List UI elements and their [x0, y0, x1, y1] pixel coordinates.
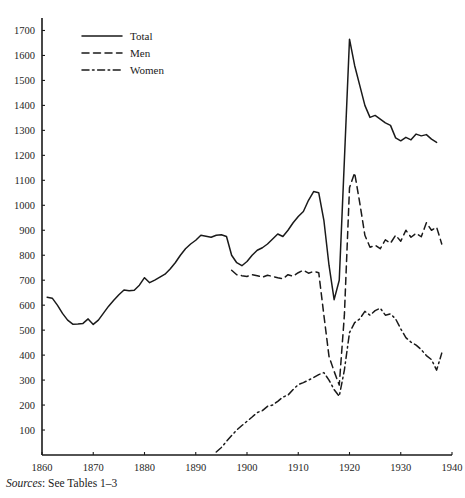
axes — [42, 18, 452, 455]
source-note-separator: : — [42, 477, 45, 489]
legend-label-men: Men — [130, 47, 151, 59]
y-tick-label: 1400 — [14, 100, 35, 111]
y-tick-label: 200 — [19, 400, 35, 411]
y-tick-label: 100 — [19, 425, 35, 436]
y-tick-label: 600 — [19, 300, 35, 311]
x-tick-label: 1920 — [339, 462, 360, 473]
source-note-label: Sources — [6, 477, 42, 489]
y-tick-label: 900 — [19, 225, 35, 236]
y-tick-label: 400 — [19, 350, 35, 361]
legend-label-women: Women — [130, 64, 164, 76]
y-tick-label: 1100 — [14, 175, 35, 186]
x-tick-labels: 186018701880189019001910192019301940 — [32, 462, 463, 473]
series-line-total — [47, 39, 437, 324]
axis-ticks — [42, 30, 452, 455]
y-tick-label: 1000 — [14, 200, 35, 211]
x-tick-label: 1890 — [185, 462, 206, 473]
chart-legend: TotalMenWomen — [82, 30, 164, 76]
source-note-text: See Tables 1–3 — [48, 477, 117, 489]
chart-figure: 1002003004005006007008009001000110012001… — [0, 0, 465, 498]
series-line-men — [232, 173, 442, 385]
y-tick-label: 800 — [19, 250, 35, 261]
x-tick-label: 1910 — [288, 462, 309, 473]
x-tick-label: 1860 — [32, 462, 53, 473]
y-tick-label: 700 — [19, 275, 35, 286]
y-tick-label: 1700 — [14, 25, 35, 36]
y-tick-label: 500 — [19, 325, 35, 336]
legend-label-total: Total — [130, 30, 152, 42]
data-series-layer — [47, 39, 442, 452]
y-tick-label: 1600 — [14, 50, 35, 61]
source-note: Sources: See Tables 1–3 — [6, 477, 117, 489]
x-tick-label: 1940 — [442, 462, 463, 473]
x-tick-label: 1900 — [237, 462, 258, 473]
y-tick-label: 1500 — [14, 75, 35, 86]
y-tick-label: 1200 — [14, 150, 35, 161]
x-tick-label: 1880 — [134, 462, 155, 473]
x-tick-label: 1870 — [83, 462, 104, 473]
y-tick-label: 300 — [19, 375, 35, 386]
series-line-women — [216, 308, 442, 452]
x-tick-label: 1930 — [390, 462, 411, 473]
y-tick-labels: 1002003004005006007008009001000110012001… — [14, 25, 35, 436]
line-chart: 1002003004005006007008009001000110012001… — [0, 0, 465, 498]
y-tick-label: 1300 — [14, 125, 35, 136]
